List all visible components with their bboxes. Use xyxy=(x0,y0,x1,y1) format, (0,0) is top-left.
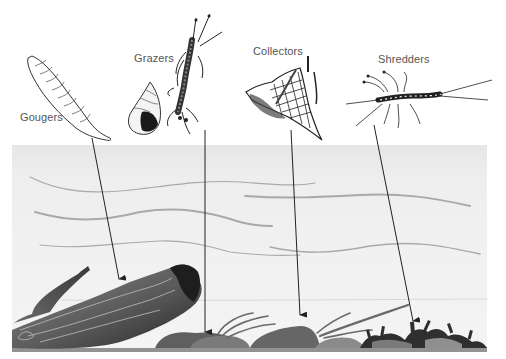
snail-shell-icon xyxy=(128,82,160,134)
stonefly-nymph-icon xyxy=(346,71,492,129)
net-spinning-caddisfly-icon xyxy=(246,56,322,140)
feeding-groups-diagram: Gougers Grazers Collectors Shredders xyxy=(0,0,506,359)
caddisfly-larva-icon xyxy=(167,14,222,134)
collectors-label: Collectors xyxy=(253,45,303,57)
grazers-label: Grazers xyxy=(134,52,174,64)
gougers-label: Gougers xyxy=(20,111,63,123)
shredders-label: Shredders xyxy=(378,53,430,65)
larva-icon xyxy=(28,56,111,140)
